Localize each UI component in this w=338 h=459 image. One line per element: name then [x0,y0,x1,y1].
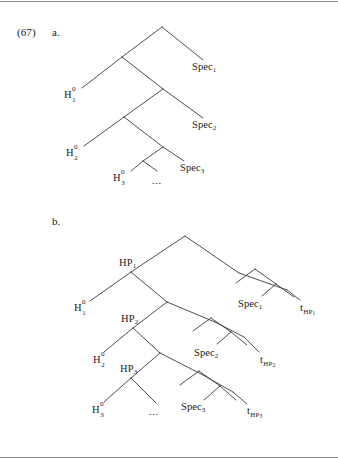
node-label-spec1-a: Spec1 [192,62,216,73]
node-label-spec1-b: Spec1 [238,299,262,310]
node-label-ellipsis-b: ... [149,407,159,418]
node-label-hp2-b: HP2 [121,314,138,325]
node-label-trace-hp1-b: tHP1 [300,303,315,314]
node-label-trace-hp2-b: tHP2 [260,355,275,366]
node-label-ellipsis-a: ... [152,176,162,187]
node-label-h3-a: H03 [113,173,121,184]
node-label-h1-a: H01 [64,90,72,101]
tree-branch-lines [0,0,338,459]
node-label-spec2-b: Spec2 [194,348,218,359]
node-label-h2-a: H02 [66,148,74,159]
node-label-h2-b: H02 [93,355,101,366]
node-label-hp3-b: HP3 [120,364,137,375]
node-label-spec3-a: Spec3 [180,163,204,174]
item-marker-a: a. [52,27,60,38]
figure-page: (67) a. b. H01 H02 H03 ... Spec1 Spec2 S… [0,0,338,459]
item-marker-b: b. [52,216,60,227]
example-number: (67) [17,27,36,38]
node-label-spec3-b: Spec3 [181,402,205,413]
node-label-hp1-b: HP1 [119,258,136,269]
tree-a-branches [82,27,203,171]
node-label-trace-hp3-b: tHP3 [247,406,262,417]
node-label-h3-b: H03 [92,405,100,416]
node-label-h1-b: H01 [74,303,82,314]
node-label-spec2-a: Spec2 [192,120,216,131]
